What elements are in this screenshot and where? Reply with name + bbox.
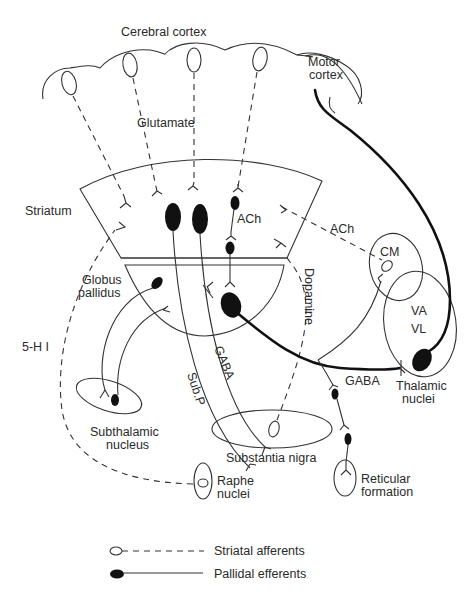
glutamate-projections: Glutamate [73,72,257,196]
cortical-neuron-icon [121,52,139,78]
synapse-icon [116,222,125,230]
legend: Striatal afferents Pallidal efferents [110,544,306,581]
subthalamic-nucleus: Subthalamic nucleus [72,371,159,452]
striatonigral-fibers: Sub.P GABA [173,231,271,471]
vl-label: VL [411,322,426,336]
striatum-label: Striatum [25,204,72,218]
synapse-icon [226,232,236,240]
basal-ganglia-diagram: Cerebral cortex Motor cortex Glutamate S… [0,0,471,616]
five-ht-label: 5-H I [22,340,49,354]
thalamic-nuclei-label-line2: nuclei [402,392,435,406]
ach-cm-label: ACh [330,222,354,236]
legend-label: Pallidal efferents [214,567,306,581]
synapse-icon [340,425,349,430]
cortical-neuron-icon [187,48,201,72]
ach-striatum-label: ACh [237,212,261,226]
va-label: VA [411,304,427,318]
raphe-label-line2: nuclei [217,487,250,501]
striatal-projection-neuron-icon [192,204,208,234]
synapse-icon [152,187,162,196]
reticular-neuron-icon [345,433,352,445]
synapse-icon [100,390,109,398]
ach-interneuron-icon [231,196,240,210]
glutamate-label: Glutamate [137,116,195,130]
cm-label: CM [380,245,399,259]
sub-p-label: Sub.P [184,371,208,408]
reticular-label-line1: Reticular [361,472,410,486]
synapse-icon [274,239,286,248]
raphe-label-line1: Raphe [217,474,254,488]
subthalamic-neuron-icon [111,394,119,406]
synapse-icon [233,184,243,192]
cm-neuron-icon [380,259,395,274]
legend-label: Striatal afferents [214,544,305,558]
synapse-icon [341,462,351,475]
motor-cortex-projection [315,90,450,352]
subthalamic-label-line1: Subthalamic [90,425,159,439]
reticular-relay-neuron-icon [332,389,339,400]
nigral-neuron-icon [267,420,281,438]
cortical-neuron-icon [251,46,269,72]
raphe-nuclei: Raphe nuclei [194,463,254,501]
legend-item-pallidal-efferents: Pallidal efferents [110,567,306,581]
motor-cortex-label-line2: cortex [309,68,344,82]
reticular-label-line2: formation [361,485,413,499]
substantia-nigra-label: Substantia nigra [226,451,316,465]
interneuron-icon [226,242,235,255]
synapse-icon [188,182,198,190]
motor-cortex-label-line1: Motor [308,55,340,69]
substantia-nigra: Substantia nigra [212,410,332,465]
gaba-thalamic-label: GABA [345,374,380,388]
synapse-icon [120,196,131,208]
dopamine-pathway: Dopamine [277,255,316,420]
striatal-projection-neuron-icon [165,203,181,231]
globus-pallidus-label-line1: Globus [82,273,122,287]
gaba-striatonigral-label: GABA [211,344,237,382]
striatum: Striatum ACh [25,159,322,287]
pallidothalamic-pathway: GABA [236,312,405,388]
pallido-subthalamic-fibers [100,288,166,406]
dopamine-label: Dopamine [302,268,316,325]
cerebral-cortex-label: Cerebral cortex [121,25,207,39]
globus-pallidus-label-line2: pallidus [78,286,120,300]
filled-neuron-icon [110,570,124,579]
synapse-icon [225,278,235,287]
subthalamic-label-line2: nucleus [106,438,149,452]
synapse-icon [400,360,405,376]
thalamic-nuclei-label-line1: Thalamic [396,379,447,393]
open-neuron-icon [110,547,122,555]
legend-item-striatal-afferents: Striatal afferents [110,544,305,558]
cortical-neuron-icon [59,70,79,97]
